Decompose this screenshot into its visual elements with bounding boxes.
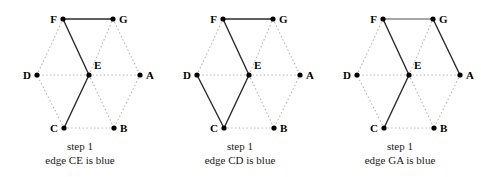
vertex-dot-A bbox=[457, 72, 462, 77]
vertex-label-E: E bbox=[254, 59, 261, 71]
vertex-dot-F bbox=[60, 16, 65, 21]
vertex-dot-G bbox=[270, 16, 275, 21]
dotted-edge-D-F bbox=[197, 19, 223, 75]
vertex-dot-C bbox=[61, 125, 66, 130]
caption-step-line: step 1 bbox=[160, 140, 320, 154]
vertex-label-F: F bbox=[210, 13, 217, 25]
vertex-dot-D bbox=[194, 72, 199, 77]
dotted-edge-A-B bbox=[434, 75, 460, 128]
vertex-dot-F bbox=[220, 16, 225, 21]
figure-three-panel-graph: FGDEACBstep 1edge CE is blueFGDEACBstep … bbox=[0, 0, 481, 177]
vertex-dot-D bbox=[34, 72, 39, 77]
panel-caption: step 1edge GA is blue bbox=[320, 140, 480, 167]
vertex-label-D: D bbox=[183, 69, 191, 81]
vertex-dot-G bbox=[110, 16, 115, 21]
dotted-edge-B-E bbox=[249, 75, 274, 128]
dotted-edge-B-E bbox=[409, 75, 434, 128]
dotted-edge-C-D bbox=[357, 75, 384, 128]
solid-edge-C-E bbox=[64, 75, 89, 128]
solid-edge-E-F bbox=[383, 19, 409, 75]
solid-edge-C-E bbox=[224, 75, 249, 128]
vertex-dot-C bbox=[381, 125, 386, 130]
vertex-dot-E bbox=[406, 72, 411, 77]
graph-canvas: FGDEACB bbox=[320, 0, 480, 142]
vertex-dot-G bbox=[430, 16, 435, 21]
vertex-dot-E bbox=[246, 72, 251, 77]
panel-caption: step 1edge CD is blue bbox=[160, 140, 320, 167]
panel-2: FGDEACBstep 1edge CD is blue bbox=[160, 0, 320, 177]
vertex-label-D: D bbox=[23, 69, 31, 81]
dotted-edge-D-F bbox=[357, 19, 383, 75]
vertex-label-G: G bbox=[119, 13, 128, 25]
vertex-label-B: B bbox=[280, 122, 288, 134]
vertex-label-E: E bbox=[414, 59, 421, 71]
vertex-label-B: B bbox=[440, 122, 448, 134]
vertex-dot-D bbox=[354, 72, 359, 77]
vertex-label-A: A bbox=[146, 69, 154, 81]
solid-edge-A-G bbox=[433, 19, 460, 75]
caption-step-line: step 1 bbox=[0, 140, 160, 154]
dotted-edge-B-E bbox=[89, 75, 114, 128]
dotted-edge-C-D bbox=[37, 75, 64, 128]
graph-canvas: FGDEACB bbox=[160, 0, 320, 142]
vertex-dot-B bbox=[271, 125, 276, 130]
caption-edge-line: edge CD is blue bbox=[160, 154, 320, 168]
dotted-edge-A-G bbox=[273, 19, 300, 75]
vertex-dot-C bbox=[221, 125, 226, 130]
caption-edge-line: edge GA is blue bbox=[320, 154, 480, 168]
panel-caption: step 1edge CE is blue bbox=[0, 140, 160, 167]
vertex-dot-E bbox=[86, 72, 91, 77]
panel-1: FGDEACBstep 1edge CE is blue bbox=[0, 0, 160, 177]
vertex-dot-B bbox=[111, 125, 116, 130]
caption-step-line: step 1 bbox=[320, 140, 480, 154]
graph-canvas: FGDEACB bbox=[0, 0, 160, 142]
solid-edge-E-F bbox=[63, 19, 89, 75]
vertex-dot-F bbox=[380, 16, 385, 21]
vertex-label-F: F bbox=[370, 13, 377, 25]
vertex-label-A: A bbox=[466, 69, 474, 81]
dotted-edge-D-F bbox=[37, 19, 63, 75]
vertex-label-C: C bbox=[50, 122, 58, 134]
vertex-label-G: G bbox=[279, 13, 288, 25]
panel-3: FGDEACBstep 1edge GA is blue bbox=[320, 0, 480, 177]
solid-edge-C-D bbox=[197, 75, 224, 128]
vertex-dot-A bbox=[297, 72, 302, 77]
vertex-dot-A bbox=[137, 72, 142, 77]
dotted-edge-A-G bbox=[113, 19, 140, 75]
solid-edge-E-F bbox=[223, 19, 249, 75]
vertex-label-B: B bbox=[120, 122, 128, 134]
solid-edge-C-E bbox=[384, 75, 409, 128]
vertex-label-E: E bbox=[94, 59, 101, 71]
vertex-dot-B bbox=[431, 125, 436, 130]
dotted-edge-A-B bbox=[274, 75, 300, 128]
vertex-label-D: D bbox=[343, 69, 351, 81]
vertex-label-C: C bbox=[370, 122, 378, 134]
dotted-edge-A-B bbox=[114, 75, 140, 128]
vertex-label-C: C bbox=[210, 122, 218, 134]
vertex-label-A: A bbox=[306, 69, 314, 81]
vertex-label-F: F bbox=[50, 13, 57, 25]
vertex-label-G: G bbox=[439, 13, 448, 25]
caption-edge-line: edge CE is blue bbox=[0, 154, 160, 168]
